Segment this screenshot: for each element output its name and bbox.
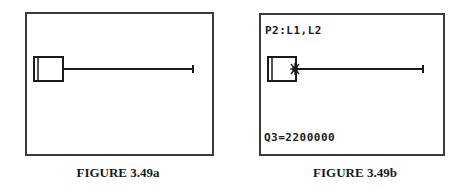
q3-readout: Q3=2200000 [264, 132, 335, 144]
figure-caption-b: FIGURE 3.49b [307, 165, 403, 181]
calculator-screen-b: P2:L1,L2 Q3=2200000 [259, 13, 445, 156]
trace-cursor-icon [290, 63, 300, 75]
boxplot-a [27, 14, 216, 158]
figure-caption-a: FIGURE 3.49a [70, 165, 166, 181]
calculator-screen-a [25, 12, 214, 156]
